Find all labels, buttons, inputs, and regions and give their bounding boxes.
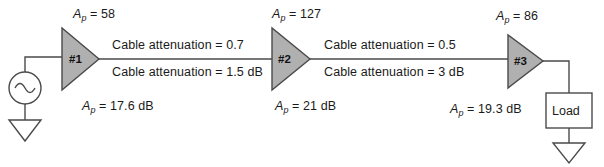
load-label: Load [552,105,580,118]
amp3-gain-ratio-value: = 86 [513,9,538,23]
cable-2-db-label: Cable attenuation = 3 dB [324,66,464,79]
cable-1-db-label: Cable attenuation = 1.5 dB [112,66,263,79]
amp2-gain-db-value: = 21 dB [292,99,336,113]
amp1-gain-db-label: Ap = 17.6 dB [82,100,154,115]
wire-source-to-amp1 [25,57,62,72]
diagram-canvas [0,0,604,167]
amplifier-2-tag: #2 [278,54,291,66]
amp2-gain-ratio-label: Ap = 127 [272,8,321,23]
cable-2-ratio-label: Cable attenuation = 0.5 [324,39,456,52]
amp3-gain-db-label: Ap = 19.3 dB [450,103,522,118]
amplifier-3-tag: #3 [514,56,527,68]
wire-amp3-to-load [543,61,569,93]
amp1-gain-ratio-label: Ap = 58 [73,8,115,23]
amp2-gain-db-label: Ap = 21 dB [275,100,336,115]
amplifier-cascade-diagram: Ap = 58 #1 Ap = 17.6 dB Cable attenuatio… [0,0,604,167]
amplifier-1-tag: #1 [69,54,82,66]
source-ground-icon [9,120,41,141]
amp1-gain-ratio-value: = 58 [90,7,115,21]
amp3-gain-db-value: = 19.3 dB [467,102,522,116]
amp2-gain-ratio-value: = 127 [289,7,321,21]
cable-1-ratio-label: Cable attenuation = 0.7 [112,39,244,52]
amp1-gain-db-value: = 17.6 dB [99,99,154,113]
load-ground-icon [553,143,585,163]
amp3-gain-ratio-label: Ap = 86 [496,10,538,25]
